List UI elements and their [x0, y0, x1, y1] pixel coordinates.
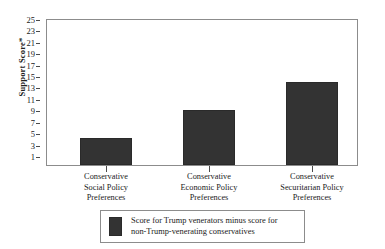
y-axis-tick-labels: 135791113151719212325 — [20, 14, 40, 164]
y-axis-tick-mark — [36, 111, 40, 112]
x-axis-category-label-line: Conservative — [149, 172, 269, 183]
x-axis-category-label: ConservativeEconomic PolicyPreferences — [149, 172, 269, 204]
y-axis-tick-mark — [36, 66, 40, 67]
x-axis-category-label-line: Preferences — [252, 193, 372, 204]
bar — [183, 110, 235, 165]
y-axis-tick-mark — [36, 20, 40, 21]
y-axis-tick-label: 15 — [27, 73, 36, 81]
x-axis-category-label-line: Securitarian Policy — [252, 183, 372, 194]
bar — [286, 82, 338, 165]
y-axis-tick-label: 9 — [31, 107, 35, 115]
x-axis-category-label-line: Preferences — [149, 193, 269, 204]
legend-label-line: Score for Trump venerators minus score f… — [131, 216, 278, 227]
x-axis-category-label: ConservativeSecuritarian PolicyPreferenc… — [252, 172, 372, 204]
y-axis-tick-mark — [36, 31, 40, 32]
y-axis-tick-mark — [36, 54, 40, 55]
y-axis-tick-label: 23 — [27, 27, 36, 35]
y-axis-tick-label: 11 — [27, 96, 35, 104]
y-axis-tick-mark — [36, 123, 40, 124]
y-axis-tick-mark — [36, 43, 40, 44]
y-axis-tick-label: 25 — [27, 16, 36, 24]
x-axis-category-label: ConservativeSocial PolicyPreferences — [46, 172, 166, 204]
y-axis-tick-label: 13 — [27, 84, 36, 92]
legend: Score for Trump venerators minus score f… — [100, 210, 305, 243]
y-axis-tick-label: 21 — [27, 39, 36, 47]
y-axis-tick-mark — [36, 134, 40, 135]
y-axis-tick-mark — [36, 77, 40, 78]
y-axis-tick-mark — [36, 88, 40, 89]
x-axis-category-label-line: Social Policy — [46, 183, 166, 194]
y-axis-tick-mark — [36, 100, 40, 101]
y-axis-tick-mark — [36, 157, 40, 158]
y-axis-tick-label: 3 — [31, 142, 35, 150]
y-axis-tick-mark — [36, 146, 40, 147]
y-axis-tick-label: 1 — [31, 153, 35, 161]
x-axis-category-label-line: Conservative — [46, 172, 166, 183]
x-axis-category-label-line: Preferences — [46, 193, 166, 204]
y-axis-tick-label: 5 — [31, 130, 35, 138]
x-axis-category-label-line: Economic Policy — [149, 183, 269, 194]
y-axis-tick-label: 19 — [27, 50, 36, 58]
figure-bar-chart: Support Score* 135791113151719212325 Con… — [0, 0, 385, 249]
bar — [80, 138, 132, 165]
x-axis-category-label-line: Conservative — [252, 172, 372, 183]
bars-layer — [46, 19, 358, 165]
y-axis-tick-label: 17 — [27, 62, 36, 70]
legend-label: Score for Trump venerators minus score f… — [131, 216, 278, 237]
legend-label-line: non-Trump-venerating conservatives — [131, 227, 278, 238]
y-axis-tick-label: 7 — [31, 119, 35, 127]
legend-swatch-icon — [109, 217, 122, 236]
